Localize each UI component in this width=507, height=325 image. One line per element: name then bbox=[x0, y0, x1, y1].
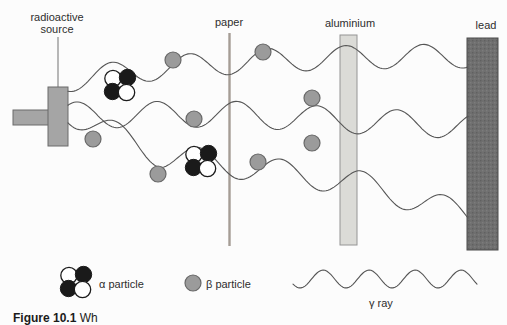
alpha-neutron-circle bbox=[75, 266, 91, 282]
source-label-line1: radioactive bbox=[30, 11, 83, 23]
figure-caption: Figure 10.1 Wh bbox=[13, 311, 98, 325]
aluminium-label: aluminium bbox=[325, 17, 375, 29]
beta-particle bbox=[165, 52, 181, 68]
gamma-legend-label: γ ray bbox=[369, 297, 393, 309]
aluminium-barrier bbox=[340, 35, 357, 245]
beta-particle bbox=[85, 131, 101, 147]
beta-legend-label: β particle bbox=[206, 278, 251, 290]
beta-particle bbox=[255, 44, 271, 60]
alpha-proton-circle bbox=[199, 160, 215, 176]
beta-legend-mark bbox=[185, 275, 201, 291]
gamma-ray-wave bbox=[68, 120, 468, 218]
lead-barrier bbox=[467, 38, 498, 250]
radioactive-source bbox=[13, 87, 68, 146]
figure-caption-number: Figure 10.1 bbox=[13, 311, 76, 325]
alpha-legend-mark bbox=[60, 266, 91, 297]
alpha-proton-circle bbox=[118, 84, 134, 100]
figure-caption-text: Wh bbox=[76, 311, 97, 325]
alpha-proton-circle bbox=[74, 281, 90, 297]
alpha-particle-cluster bbox=[185, 145, 216, 176]
alpha-neutron-circle bbox=[119, 69, 135, 85]
beta-particle bbox=[150, 166, 166, 182]
lead-label: lead bbox=[476, 19, 497, 31]
paper-label: paper bbox=[215, 16, 243, 28]
alpha-legend-label: α particle bbox=[99, 278, 144, 290]
source-arm bbox=[13, 110, 50, 125]
alpha-neutron-circle bbox=[200, 145, 216, 161]
alpha-particle-cluster bbox=[104, 69, 135, 100]
source-label-line2: source bbox=[40, 23, 73, 35]
beta-particle bbox=[304, 135, 320, 151]
source-body bbox=[48, 87, 68, 146]
gamma-ray-legend-mark bbox=[293, 270, 477, 288]
beta-particle bbox=[186, 111, 202, 127]
beta-particle bbox=[304, 90, 320, 106]
beta-particle bbox=[250, 154, 266, 170]
